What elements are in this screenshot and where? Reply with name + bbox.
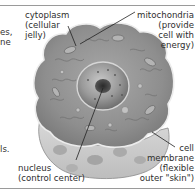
mitochondria-label-line-4: energy): [137, 40, 194, 50]
membrane-label-line-3: (flexible: [140, 163, 194, 173]
nucleus-label-line-1: nucleus: [18, 163, 85, 173]
nucleus-label: nucleus (control center): [18, 163, 85, 183]
cytoplasm-label: cytoplasm (cellular jelly): [25, 10, 69, 40]
nucleolus: [95, 79, 111, 93]
bottom-divider: [0, 188, 195, 189]
cytoplasm-label-line-1: cytoplasm: [25, 10, 69, 20]
mitochondria-label-line-3: cell with: [137, 30, 194, 40]
membrane-label-line-2: membrane: [140, 153, 194, 163]
nucleus-label-line-2: (control center): [18, 173, 85, 183]
mitochondria-label: mitochondria (provide cell with energy): [137, 10, 194, 50]
cytoplasm-label-line-2: (cellular: [25, 20, 69, 30]
membrane-label-line-1: cell: [140, 143, 194, 153]
mitochondria-label-line-1: mitochondria: [137, 10, 194, 20]
cytoplasm-label-line-3: jelly): [25, 30, 69, 40]
mitochondria-label-line-2: (provide: [137, 20, 194, 30]
membrane-label: cell membrane (flexible outer "skin"): [140, 143, 194, 183]
membrane-label-line-4: outer "skin"): [140, 173, 194, 183]
